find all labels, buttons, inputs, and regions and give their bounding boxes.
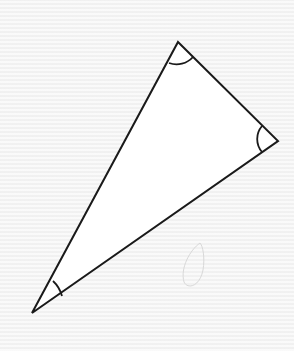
- triangle-diagram: [0, 0, 294, 351]
- triangle: [32, 42, 278, 313]
- faint-pencil-mark: [183, 243, 204, 286]
- diagram-canvas: [0, 0, 294, 351]
